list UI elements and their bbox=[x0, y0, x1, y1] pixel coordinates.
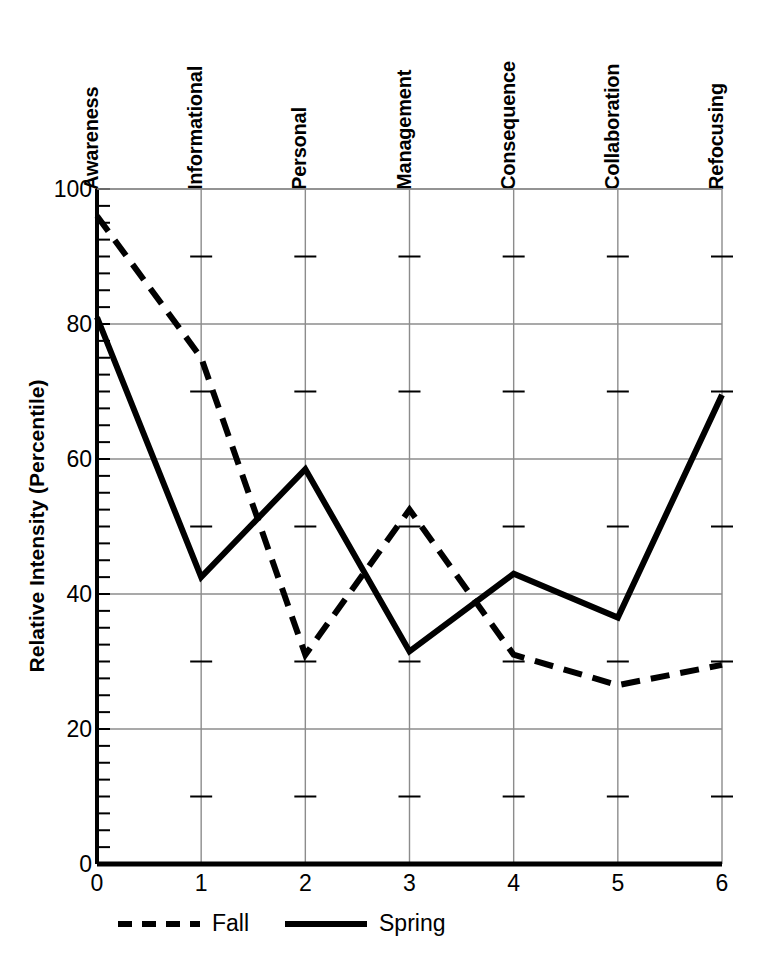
legend-label-fall: Fall bbox=[212, 912, 249, 935]
legend-label-spring: Spring bbox=[379, 912, 445, 935]
legend-swatch-dashed-icon bbox=[118, 921, 200, 927]
plot-area bbox=[0, 0, 763, 969]
chart-legend: Fall Spring bbox=[0, 908, 763, 954]
legend-entry-spring: Spring bbox=[285, 912, 445, 935]
legend-entry-fall: Fall bbox=[118, 912, 249, 935]
legend-swatch-solid-icon bbox=[285, 921, 367, 927]
chart-figure: Awareness Informational Personal Managem… bbox=[0, 0, 763, 969]
